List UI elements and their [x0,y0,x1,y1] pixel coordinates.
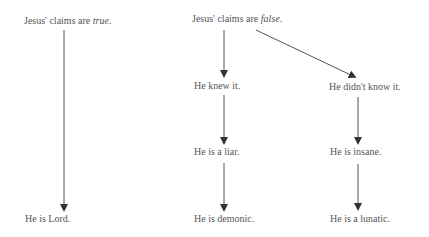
node-claims-true-emph: true [93,15,109,26]
node-he-is-a-lunatic: He is a lunatic. [330,213,390,225]
node-claims-false: Jesus' claims are false. [192,13,282,25]
node-claims-false-suffix: . [280,13,283,24]
node-he-is-insane: He is insane. [330,146,381,158]
diagram-arrows [0,0,429,237]
edge-false-to-didnt-know [256,30,353,76]
node-claims-true: Jesus' claims are true. [24,15,111,27]
node-claims-false-emph: false [261,13,280,24]
node-claims-true-prefix: Jesus' claims are [24,15,93,26]
node-he-is-a-liar: He is a liar. [194,146,240,158]
node-he-is-demonic: He is demonic. [194,213,254,225]
node-he-is-lord: He is Lord. [25,213,70,225]
node-claims-false-prefix: Jesus' claims are [192,13,261,24]
node-claims-true-suffix: . [109,15,112,26]
node-he-didnt-know-it: He didn't know it. [329,81,401,93]
node-he-knew-it: He knew it. [194,80,240,92]
